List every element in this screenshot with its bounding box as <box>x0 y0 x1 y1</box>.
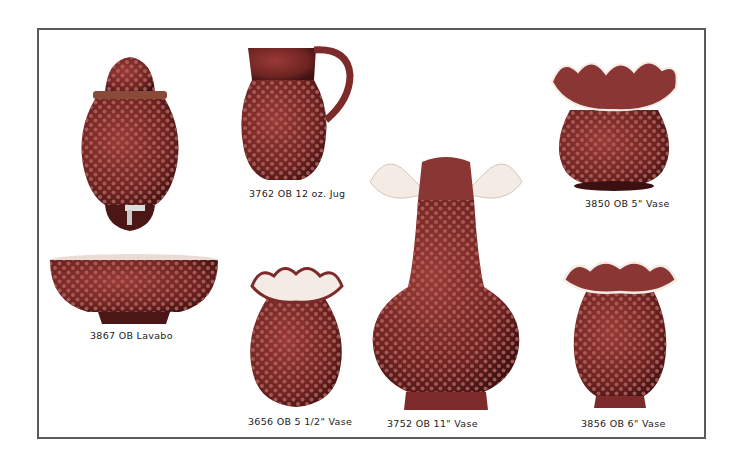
caption-vase-6: 3856 OB 6" Vase <box>581 418 666 429</box>
caption-vase-5: 3850 OB 5" Vase <box>585 198 670 209</box>
jug-image <box>238 40 358 185</box>
caption-vase-5-half: 3656 OB 5 1/2" Vase <box>248 416 352 427</box>
caption-vase-11: 3752 OB 11" Vase <box>387 418 478 429</box>
caption-lavabo: 3867 OB Lavabo <box>90 330 173 341</box>
dispenser-image <box>75 55 185 240</box>
vase-11-image <box>366 152 526 417</box>
vase-5-half-image <box>246 262 346 412</box>
lavabo-image <box>48 252 220 330</box>
caption-jug: 3762 OB 12 oz. Jug <box>249 188 345 199</box>
vase-5-image <box>548 52 680 192</box>
vase-6-image <box>560 256 680 412</box>
